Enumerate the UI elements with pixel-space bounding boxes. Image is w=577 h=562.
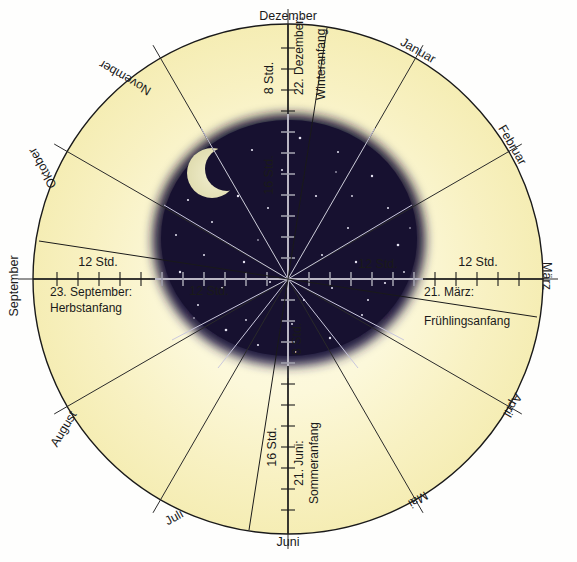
month-label-september: September <box>7 255 21 316</box>
year-circle-svg: Dezember Januar Februar März April Mai J… <box>0 0 577 562</box>
spring-date-label: 21. März: <box>424 285 474 299</box>
spring-name-label: Frühlingsanfang <box>424 314 510 328</box>
autumn-date-label: 23. September: <box>50 285 132 299</box>
hour-label-left-outer: 12 Std. <box>78 255 118 269</box>
month-label-oktober: Oktober <box>25 145 59 191</box>
hour-label-right-inner: 12 Std. <box>358 257 398 271</box>
month-label-dezember: Dezember <box>259 9 317 23</box>
hour-label-bottom-inner: 8 Std. <box>290 323 304 356</box>
autumn-name-label: Herbstanfang <box>50 301 122 315</box>
month-label-juni: Juni <box>277 535 300 549</box>
month-label-maerz: März <box>540 262 554 290</box>
hour-label-top-outer: 8 Std. <box>262 62 276 95</box>
diagram-canvas: Dezember Januar Februar März April Mai J… <box>0 0 577 562</box>
moon-icon <box>180 140 250 210</box>
month-label-august: August <box>48 408 80 449</box>
hour-label-right-outer: 12 Std. <box>458 255 498 269</box>
summer-date-label: 21. Juni: <box>292 440 306 485</box>
hour-label-top-inner: 16 Std. <box>262 155 276 195</box>
hour-label-left-inner: 12 Std. <box>189 284 229 298</box>
winter-name-label: Winteranfang <box>314 29 328 100</box>
winter-date-label: 22. Dezember: <box>292 16 306 95</box>
hour-label-bottom-outer: 16 Std. <box>265 427 279 467</box>
summer-name-label: Sommeranfang <box>307 422 321 504</box>
